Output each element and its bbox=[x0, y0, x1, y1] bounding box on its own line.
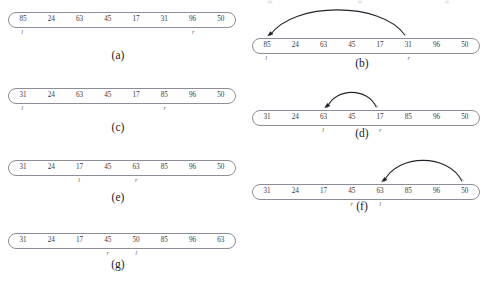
pointer-left-c: l bbox=[8, 105, 37, 111]
array-cell: 50 bbox=[207, 16, 235, 23]
pointer-left-a: l bbox=[8, 29, 37, 35]
array-g: 3124174550859663 bbox=[8, 233, 236, 249]
panel-caption-g: (g) bbox=[98, 259, 138, 271]
array-cell: 85 bbox=[150, 237, 178, 244]
array-cell: 50 bbox=[207, 92, 235, 99]
array-cell: 85 bbox=[253, 42, 281, 49]
array-cell: 17 bbox=[122, 92, 150, 99]
array-cell: 31 bbox=[9, 164, 37, 171]
array-cell: 63 bbox=[310, 42, 338, 49]
pointer-row-e: lr bbox=[8, 177, 236, 187]
array-cell: 24 bbox=[37, 92, 65, 99]
array-cell: 24 bbox=[281, 42, 309, 49]
array-d: 3124634517859650 bbox=[252, 110, 480, 126]
array-cell: 45 bbox=[338, 114, 366, 121]
array-cell: 85 bbox=[394, 188, 422, 195]
array-cell: 45 bbox=[94, 237, 122, 244]
array-cell: 63 bbox=[66, 92, 94, 99]
panel-caption-b: (b) bbox=[342, 58, 382, 70]
array-cell: 24 bbox=[37, 164, 65, 171]
array-cell: 17 bbox=[66, 237, 94, 244]
array-cell: 17 bbox=[122, 16, 150, 23]
array-cell: 31 bbox=[253, 188, 281, 195]
array-cell: 31 bbox=[9, 237, 37, 244]
array-cell: 63 bbox=[366, 188, 394, 195]
array-cell: 96 bbox=[423, 188, 451, 195]
array-c: 3124634517859650 bbox=[8, 88, 236, 104]
array-cell: 50 bbox=[207, 164, 235, 171]
array-cell: 24 bbox=[281, 114, 309, 121]
pointer-left-g: l bbox=[122, 250, 151, 256]
panel-caption-f: (f) bbox=[342, 201, 382, 213]
array-cell: 45 bbox=[94, 92, 122, 99]
pointer-row-a: lr bbox=[8, 29, 236, 39]
array-cell: 85 bbox=[150, 92, 178, 99]
array-cell: 31 bbox=[394, 42, 422, 49]
array-f: 3124174563859650 bbox=[252, 184, 480, 200]
panel-caption-a: (a) bbox=[98, 50, 138, 62]
array-cell: 96 bbox=[423, 42, 451, 49]
array-cell: 45 bbox=[338, 42, 366, 49]
array-cell: 45 bbox=[94, 16, 122, 23]
array-cell: 17 bbox=[366, 114, 394, 121]
scan-artifact bbox=[180, 0, 480, 6]
pointer-right-a: r bbox=[179, 29, 208, 35]
array-cell: 31 bbox=[9, 92, 37, 99]
array-cell: 85 bbox=[394, 114, 422, 121]
array-cell: 96 bbox=[179, 16, 207, 23]
array-cell: 96 bbox=[179, 164, 207, 171]
array-cell: 63 bbox=[310, 114, 338, 121]
pointer-right-c: r bbox=[151, 105, 180, 111]
array-cell: 45 bbox=[338, 188, 366, 195]
array-cell: 50 bbox=[451, 42, 479, 49]
array-cell: 31 bbox=[253, 114, 281, 121]
array-cell: 63 bbox=[122, 164, 150, 171]
array-e: 3124174563859650 bbox=[8, 160, 236, 176]
array-cell: 24 bbox=[37, 16, 65, 23]
array-cell: 24 bbox=[37, 237, 65, 244]
array-cell: 45 bbox=[94, 164, 122, 171]
array-cell: 63 bbox=[66, 16, 94, 23]
array-cell: 96 bbox=[179, 92, 207, 99]
array-cell: 96 bbox=[423, 114, 451, 121]
array-cell: 17 bbox=[310, 188, 338, 195]
array-cell: 85 bbox=[150, 164, 178, 171]
array-cell: 17 bbox=[366, 42, 394, 49]
array-cell: 63 bbox=[207, 237, 235, 244]
pointer-left-d: l bbox=[309, 127, 338, 133]
array-b: 8524634517319650 bbox=[252, 38, 480, 54]
array-cell: 17 bbox=[66, 164, 94, 171]
array-cell: 85 bbox=[9, 16, 37, 23]
array-cell: 50 bbox=[451, 114, 479, 121]
panel-caption-c: (c) bbox=[98, 122, 138, 134]
panel-caption-d: (d) bbox=[342, 128, 382, 140]
array-cell: 50 bbox=[451, 188, 479, 195]
array-cell: 31 bbox=[150, 16, 178, 23]
array-a: 8524634517319650 bbox=[8, 12, 236, 28]
pointer-right-b: r bbox=[395, 55, 424, 61]
array-cell: 24 bbox=[281, 188, 309, 195]
array-cell: 96 bbox=[179, 237, 207, 244]
pointer-left-e: l bbox=[65, 177, 94, 183]
panel-caption-e: (e) bbox=[98, 192, 138, 204]
pointer-right-g: r bbox=[94, 250, 123, 256]
pointer-left-b: l bbox=[252, 55, 281, 61]
pointer-row-c: lr bbox=[8, 105, 236, 115]
array-cell: 50 bbox=[122, 237, 150, 244]
pointer-right-e: r bbox=[122, 177, 151, 183]
